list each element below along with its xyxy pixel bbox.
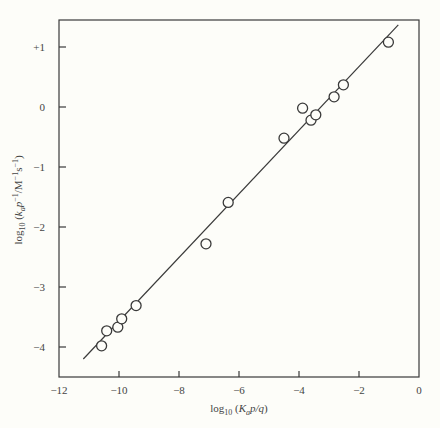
y-tick-label: +1 [33, 41, 45, 53]
data-point-circle [131, 301, 141, 311]
y-tick-label: −4 [33, 341, 45, 353]
x-tick-label: −10 [110, 384, 128, 396]
y-tick-label: −1 [33, 161, 45, 173]
x-axis-title: log10 (Kap/q) [210, 402, 268, 417]
plot-border [59, 20, 419, 377]
x-tick-label: −8 [173, 384, 185, 396]
x-tick-label: −12 [50, 384, 67, 396]
y-axis-title: log10 (kap−1/M−1s−1) [11, 155, 27, 245]
x-tick-label: −4 [293, 384, 305, 396]
x-axis-ticks: −12−10−8−6−4−20 [50, 371, 422, 396]
data-point-circle [223, 197, 233, 207]
plot-frame [59, 20, 419, 377]
fit-line [83, 25, 398, 359]
data-point-circle [338, 80, 348, 90]
x-tick-label: −2 [353, 384, 365, 396]
data-point-circle [329, 92, 339, 102]
data-point-circle [201, 239, 211, 249]
chart: −12−10−8−6−4−20 +10−1−2−3−4 log10 (Kap/q… [0, 0, 440, 428]
x-tick-label: −6 [233, 384, 245, 396]
data-point-circle [117, 314, 127, 324]
data-point-circle [97, 341, 107, 351]
data-point-circle [279, 133, 289, 143]
data-point-circle [383, 37, 393, 47]
y-axis-ticks: +10−1−2−3−4 [33, 41, 66, 353]
x-tick-label: 0 [416, 384, 422, 396]
data-points [97, 37, 394, 351]
regression-line [83, 25, 398, 359]
y-tick-label: −3 [33, 281, 45, 293]
data-point-circle [311, 110, 321, 120]
data-point-circle [298, 103, 308, 113]
y-tick-label: −2 [33, 221, 45, 233]
y-tick-label: 0 [40, 101, 46, 113]
data-point-circle [102, 326, 112, 336]
